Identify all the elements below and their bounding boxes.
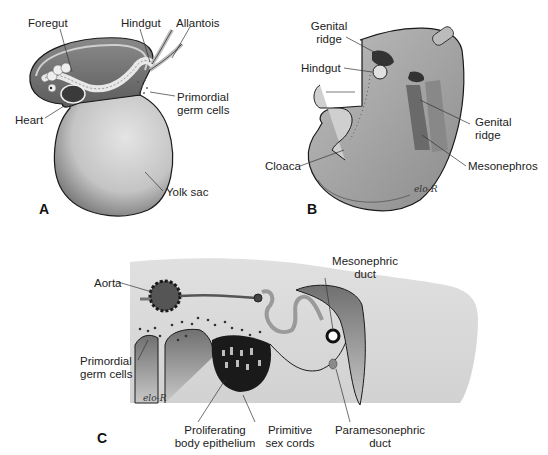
label-aorta: Aorta [94, 277, 122, 290]
label-hindgut-a: Hindgut [121, 17, 161, 30]
label-primordial-c-1: Primordial [80, 355, 132, 368]
label-yolk-sac: Yolk sac [166, 186, 208, 199]
label-primordial-a-1: Primordial [177, 91, 229, 104]
label-hindgut-b: Hindgut [301, 62, 341, 75]
signature-b: elo-R [414, 184, 437, 194]
panel-c-drawing [118, 258, 478, 422]
label-mesonephric-2: duct [330, 268, 400, 281]
panel-letter-c: C [97, 430, 107, 446]
label-mesonephros: Mesonephros [468, 160, 538, 173]
label-primordial-c-2: germ cells [80, 368, 132, 381]
label-allantois: Allantois [176, 17, 219, 30]
label-heart: Heart [15, 114, 43, 127]
label-genital-ridge-right-1: Genital [475, 116, 511, 129]
label-genital-ridge-top-1: Genital [309, 20, 349, 33]
label-primitive-2: sex cords [255, 437, 325, 450]
label-proliferating-1: Proliferating [165, 424, 265, 437]
label-primordial-a-2: germ cells [177, 104, 229, 117]
label-genital-ridge-top-2: ridge [309, 33, 349, 46]
panel-letter-a: A [39, 201, 49, 217]
paramesonephric-duct-shape [329, 359, 337, 369]
label-proliferating-2: body epithelium [165, 437, 265, 450]
mesonephric-duct-shape [327, 330, 339, 342]
figure-artwork [0, 0, 548, 455]
yolk-sac-shape [54, 95, 172, 216]
heart-shape [61, 85, 85, 103]
label-genital-ridge-right-2: ridge [475, 129, 501, 142]
label-paramesonephric-1: Paramesonephric [330, 424, 430, 437]
label-foregut: Foregut [28, 17, 68, 30]
label-cloaca: Cloaca [265, 160, 301, 173]
label-primitive-1: Primitive [255, 424, 325, 437]
signature-c: elo-R [143, 393, 166, 403]
panel-b-drawing [300, 25, 470, 211]
label-paramesonephric-2: duct [330, 437, 430, 450]
label-mesonephric-1: Mesonephric [330, 255, 400, 268]
aorta-shape [150, 281, 180, 311]
hindgut-b-shape [373, 65, 387, 79]
panel-letter-b: B [307, 201, 317, 217]
